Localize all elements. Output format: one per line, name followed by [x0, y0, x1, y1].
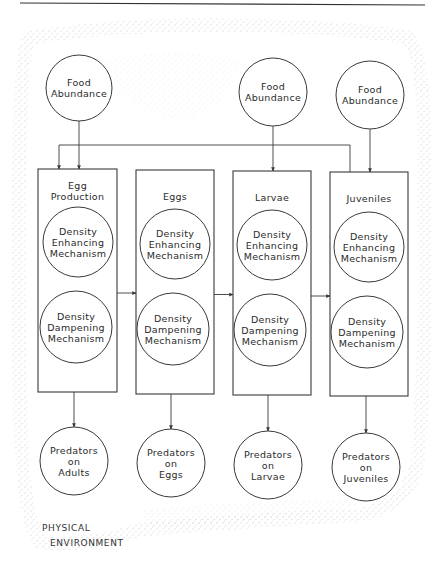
density-dampening-label-line-1: Density: [144, 313, 202, 324]
predator-label: PredatorsonEggs: [147, 447, 195, 480]
food-abundance-label-line-1: Food: [51, 77, 107, 88]
predator-label-line-3: Juveniles: [342, 473, 390, 484]
food-abundance-label-line-2: Abundance: [245, 92, 301, 103]
predator-label-line-1: Predators: [342, 451, 390, 462]
density-enhancing-label-line-3: Mechanism: [147, 250, 204, 261]
predator-label-line-2: on: [147, 458, 195, 469]
density-enhancing-label-line-2: Enhancing: [147, 239, 204, 250]
food-abundance-label-line-1: Food: [245, 81, 301, 92]
density-enhancing-label-line-2: Enhancing: [50, 237, 107, 248]
predator-label-line-3: Adults: [50, 467, 98, 478]
density-dampening-label-line-3: Mechanism: [338, 338, 396, 349]
density-dampening-label: DensityDampeningMechanism: [144, 313, 202, 346]
density-enhancing-label-line-1: Density: [50, 226, 107, 237]
density-enhancing-label: DensityEnhancingMechanism: [50, 226, 107, 259]
predator-label-line-2: on: [50, 456, 98, 467]
food-abundance-label: FoodAbundance: [51, 77, 107, 99]
predator-label-line-2: on: [342, 462, 390, 473]
food-abundance-label-line-1: Food: [342, 84, 398, 95]
density-enhancing-label-line-1: Density: [341, 231, 398, 242]
density-enhancing-label-line-1: Density: [147, 228, 204, 239]
predator-label: PredatorsonJuveniles: [342, 451, 390, 484]
density-dampening-label-line-1: Density: [241, 314, 299, 325]
food-abundance-label-line-2: Abundance: [51, 88, 107, 99]
predator-label-line-3: Larvae: [244, 471, 292, 482]
density-enhancing-label: DensityEnhancingMechanism: [147, 228, 204, 261]
predator-label-line-3: Eggs: [147, 469, 195, 480]
density-dampening-label: DensityDampeningMechanism: [47, 311, 105, 344]
stage-title-line-1: Egg: [51, 180, 105, 191]
density-dampening-label-line-2: Dampening: [241, 325, 299, 336]
predator-label: PredatorsonLarvae: [244, 449, 292, 482]
stage-title: Larvae: [255, 192, 289, 203]
environment-label-line2: ENVIRONMENT: [50, 538, 124, 548]
density-enhancing-label-line-3: Mechanism: [244, 251, 301, 262]
density-enhancing-label-line-2: Enhancing: [244, 240, 301, 251]
food-abundance-label: FoodAbundance: [245, 81, 301, 103]
food-abundance-label-line-2: Abundance: [342, 95, 398, 106]
density-dampening-label-line-1: Density: [338, 316, 396, 327]
stage-title-line-1: Juveniles: [346, 193, 391, 204]
density-dampening-label: DensityDampeningMechanism: [241, 314, 299, 347]
predator-label-line-1: Predators: [244, 449, 292, 460]
density-dampening-label-line-2: Dampening: [144, 324, 202, 335]
density-enhancing-label: DensityEnhancingMechanism: [244, 229, 301, 262]
density-dampening-label-line-2: Dampening: [47, 322, 105, 333]
density-enhancing-label-line-2: Enhancing: [341, 242, 398, 253]
density-dampening-label-line-2: Dampening: [338, 327, 396, 338]
stage-title-line-1: Eggs: [163, 191, 187, 202]
predator-label-line-1: Predators: [50, 445, 98, 456]
predator-label-line-1: Predators: [147, 447, 195, 458]
density-enhancing-label-line-1: Density: [244, 229, 301, 240]
density-enhancing-label-line-3: Mechanism: [341, 253, 398, 264]
header-rule: [20, 3, 425, 5]
stage-title: Eggs: [163, 191, 187, 202]
stage-title-line-2: Production: [51, 191, 105, 202]
density-enhancing-label: DensityEnhancingMechanism: [341, 231, 398, 264]
density-dampening-label-line-3: Mechanism: [241, 336, 299, 347]
nodes: [38, 55, 408, 501]
predator-label: PredatorsonAdults: [50, 445, 98, 478]
density-dampening-label-line-3: Mechanism: [47, 333, 105, 344]
density-dampening-label-line-3: Mechanism: [144, 335, 202, 346]
stage-title-line-1: Larvae: [255, 192, 289, 203]
density-dampening-label-line-1: Density: [47, 311, 105, 322]
food-abundance-label: FoodAbundance: [342, 84, 398, 106]
life-cycle-diagram: FoodAbundanceFoodAbundanceFoodAbundanceE…: [0, 0, 437, 584]
predator-label-line-2: on: [244, 460, 292, 471]
environment-label-line1: PHYSICAL: [42, 523, 90, 533]
stage-title: EggProduction: [51, 180, 105, 202]
density-enhancing-label-line-3: Mechanism: [50, 248, 107, 259]
density-dampening-label: DensityDampeningMechanism: [338, 316, 396, 349]
stage-title: Juveniles: [346, 193, 391, 204]
